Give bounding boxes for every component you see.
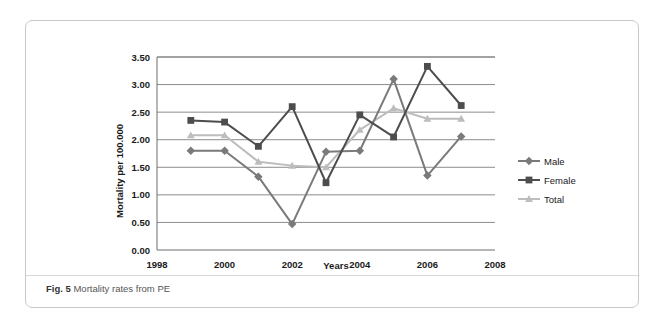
legend-item-male[interactable]: Male (518, 156, 565, 167)
x-axis-title: Years (323, 260, 348, 271)
svg-text:2002: 2002 (282, 259, 303, 270)
chart-area: 0.000.501.001.502.002.503.003.50 1998200… (26, 21, 640, 277)
data-point-female (390, 134, 397, 141)
legend-label-male: Male (544, 156, 565, 167)
svg-text:2.00: 2.00 (132, 134, 151, 145)
svg-text:1.50: 1.50 (132, 162, 151, 173)
svg-text:0.50: 0.50 (132, 217, 151, 228)
figure-caption-label: Fig. 5 (46, 283, 71, 294)
y-axis-tick-labels: 0.000.501.001.502.002.503.003.50 (132, 52, 151, 256)
data-point-female (458, 102, 465, 109)
legend-item-female[interactable]: Female (518, 175, 576, 186)
data-point-female (424, 63, 431, 70)
mortality-line-chart: 0.000.501.001.502.002.503.003.50 1998200… (26, 21, 640, 277)
legend-item-total[interactable]: Total (518, 194, 564, 205)
caption-bar: Fig. 5 Mortality rates from PE (26, 275, 640, 307)
series-total (187, 104, 465, 170)
data-series-group (187, 63, 466, 228)
legend-marker-diamond-icon (525, 157, 534, 166)
series-male (187, 75, 466, 229)
svg-text:1998: 1998 (146, 259, 167, 270)
data-point-female (187, 117, 194, 124)
data-point-female (289, 103, 296, 110)
svg-text:1.00: 1.00 (132, 189, 151, 200)
data-point-female (323, 179, 330, 186)
data-point-total (390, 104, 398, 111)
figure-caption: Fig. 5 Mortality rates from PE (46, 283, 170, 294)
legend-label-total: Total (544, 194, 564, 205)
data-point-male (356, 146, 365, 155)
data-point-female (221, 119, 228, 126)
data-point-male (389, 75, 398, 84)
data-point-male (322, 148, 331, 157)
svg-text:3.50: 3.50 (132, 52, 151, 63)
figure-panel: 0.000.501.001.502.002.503.003.50 1998200… (25, 20, 639, 308)
legend-marker-square-icon (526, 177, 533, 184)
svg-text:2006: 2006 (417, 259, 438, 270)
svg-text:2.50: 2.50 (132, 107, 151, 118)
y-axis-title: Mortality per 100.000 (114, 124, 125, 218)
legend-label-female: Female (544, 175, 576, 186)
figure-caption-text: Mortality rates from PE (73, 283, 170, 294)
svg-text:2000: 2000 (214, 259, 235, 270)
svg-text:2004: 2004 (349, 259, 371, 270)
chart-legend: MaleFemaleTotal (518, 156, 576, 205)
svg-text:3.00: 3.00 (132, 79, 151, 90)
data-point-female (255, 143, 262, 150)
svg-text:2008: 2008 (484, 259, 505, 270)
svg-text:0.00: 0.00 (132, 245, 151, 256)
data-point-female (356, 112, 363, 119)
data-point-male (187, 146, 196, 155)
